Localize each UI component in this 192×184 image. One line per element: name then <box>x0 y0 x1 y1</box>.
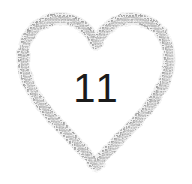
heart-outline-icon <box>0 0 192 184</box>
image-canvas: 11 <box>0 0 192 184</box>
